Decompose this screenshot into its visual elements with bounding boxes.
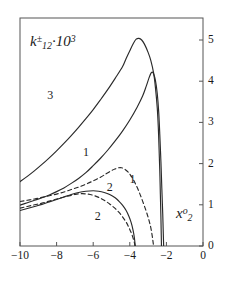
curve-1-solid <box>20 72 164 246</box>
curve-label-2-solid: 2 <box>107 181 113 193</box>
x-axis-title: xo2 <box>176 206 193 223</box>
xtick-label-4: −2 <box>160 250 172 262</box>
ytick-label-3: 3 <box>208 117 214 129</box>
ytick-label-1: 1 <box>208 199 214 211</box>
curve-2-dashed <box>20 194 135 246</box>
ytick-label-2: 2 <box>208 158 214 170</box>
xtick-label-1: −8 <box>50 250 62 262</box>
xtick-label-3: −4 <box>124 250 136 262</box>
curve-label-3: 3 <box>47 89 53 101</box>
x-axis-subscript: 2 <box>188 212 193 223</box>
curve-3 <box>20 38 161 246</box>
ytick-label-0: 0 <box>208 240 214 252</box>
xtick-label-0: −10 <box>11 250 29 262</box>
y-axis-title: k±12·103 <box>30 34 76 51</box>
curve-label-1-solid: 1 <box>83 146 89 158</box>
y-axis-factor: ·10 <box>52 33 71 49</box>
x-axis-symbol: x <box>176 205 183 221</box>
data-curves <box>20 38 164 246</box>
figure-container: −10 −8 −6 −4 −2 0 0 1 2 3 4 5 k±12·103 x… <box>0 0 228 282</box>
y-axis-subscript: 12 <box>42 40 52 51</box>
y-axis-symbol: k <box>30 33 37 49</box>
curve-label-1-dashed: 1 <box>130 173 136 185</box>
curve-label-2-dashed: 2 <box>95 210 101 222</box>
ytick-label-4: 4 <box>208 75 214 87</box>
y-axis-factor-exponent: 3 <box>71 33 76 44</box>
xtick-label-2: −6 <box>87 250 99 262</box>
xtick-label-5: 0 <box>200 250 206 262</box>
ytick-label-5: 5 <box>208 34 214 46</box>
